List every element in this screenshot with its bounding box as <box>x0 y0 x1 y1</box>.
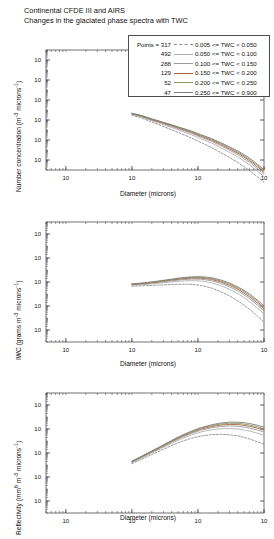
legend-label: 0.005 <= TWC < 0.050 <box>194 41 257 48</box>
panel-iwc: 10110210310410−810−610−410−2100 IWC (gra… <box>0 212 273 372</box>
legend-label: 0.150 <= TWC < 0.200 <box>194 69 257 76</box>
legend-item: 470.250 <= TWC < 0.900 <box>129 87 271 97</box>
panel-1-y-axis-label: Number concentration (m-3 microns-1) <box>13 81 22 192</box>
svg-text:10−4: 10−4 <box>34 279 41 285</box>
series-line <box>132 114 264 174</box>
panel-3-x-axis-label: Diameter (microns) <box>88 514 208 521</box>
svg-text:10−4: 10−4 <box>34 157 41 163</box>
legend-label: 0.100 <= TWC < 0.150 <box>194 60 257 67</box>
svg-text:103: 103 <box>195 347 202 353</box>
svg-text:101: 101 <box>63 518 70 524</box>
svg-text:102: 102 <box>129 175 136 181</box>
svg-text:10−4: 10−4 <box>34 450 41 456</box>
svg-text:10−8: 10−8 <box>34 327 41 333</box>
legend-color-swatch <box>173 59 194 67</box>
legend-label: 0.050 <= TWC < 0.100 <box>194 50 257 57</box>
title-line-2: Changes in the glaciated phase spectra w… <box>24 16 274 26</box>
legend-color-swatch <box>173 88 194 96</box>
legend-color-swatch <box>173 69 194 77</box>
svg-text:104: 104 <box>261 518 268 524</box>
legend-point-count: 288 <box>129 60 173 67</box>
svg-text:106: 106 <box>34 57 41 63</box>
legend-color-swatch <box>173 78 194 86</box>
title-line-1: Continental CFDE III and AIRS <box>24 6 274 16</box>
series-line <box>132 278 264 309</box>
series-line <box>132 114 264 173</box>
svg-text:101: 101 <box>63 175 70 181</box>
svg-text:100: 100 <box>34 402 41 408</box>
legend-label: 0.200 <= TWC < 0.250 <box>194 79 257 86</box>
legend-point-count: 47 <box>129 89 173 96</box>
series-line <box>132 422 264 461</box>
svg-text:104: 104 <box>261 347 268 353</box>
series-line <box>132 434 264 463</box>
legend-color-swatch <box>173 40 194 48</box>
series-line <box>132 113 264 171</box>
svg-text:10−6: 10−6 <box>34 303 41 309</box>
legend-point-count: 129 <box>129 69 173 76</box>
series-line <box>132 426 264 462</box>
panel-3-y-axis-label: Reflectivity (mm6 m-3 microns-1) <box>13 441 22 535</box>
legend-color-swatch <box>173 50 194 58</box>
svg-text:10−2: 10−2 <box>34 255 41 261</box>
panel-2-x-axis-label: Diameter (microns) <box>88 360 208 367</box>
legend-label: 0.250 <= TWC < 0.900 <box>194 89 257 96</box>
legend-point-count: Points = 317 <box>129 41 173 48</box>
figure-title: Continental CFDE III and AIRS Changes in… <box>24 6 274 26</box>
legend: Points = 3170.005 <= TWC < 0.0504920.050… <box>128 35 270 97</box>
panel-2-axes: 10110210310410−810−610−410−2100 <box>0 212 273 372</box>
svg-text:102: 102 <box>129 347 136 353</box>
legend-point-count: 52 <box>129 79 173 86</box>
series-line <box>132 429 264 463</box>
svg-text:100: 100 <box>34 231 41 237</box>
svg-text:101: 101 <box>63 347 70 353</box>
svg-text:10−2: 10−2 <box>34 426 41 432</box>
svg-text:102: 102 <box>34 97 41 103</box>
svg-text:10−6: 10−6 <box>34 474 41 480</box>
panel-1-x-axis-label: Diameter (microns) <box>88 190 208 197</box>
series-line <box>132 115 264 182</box>
panel-2-y-axis-label: IWC (grams m-3 microns-1) <box>13 281 22 360</box>
series-line <box>132 284 264 322</box>
svg-text:103: 103 <box>195 175 202 181</box>
legend-point-count: 492 <box>129 50 173 57</box>
svg-text:104: 104 <box>34 77 41 83</box>
svg-text:10−8: 10−8 <box>34 498 41 504</box>
svg-text:100: 100 <box>34 117 41 123</box>
svg-text:10−2: 10−2 <box>34 137 41 143</box>
